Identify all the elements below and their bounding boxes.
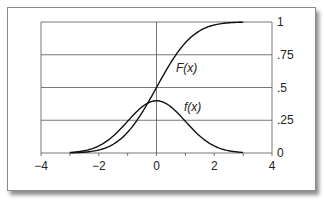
x-tick-label: 4 (269, 159, 276, 173)
y-tick-label: .75 (277, 48, 294, 62)
y-axis-ticks: 0.25.5.751 (277, 15, 294, 160)
label-pdf: f(x) (184, 100, 201, 114)
x-axis-ticks: −4−2024 (34, 159, 276, 173)
x-tick-label: 2 (211, 159, 218, 173)
chart-plot: −4−2024 0.25.5.751 F(x) f(x) (0, 0, 324, 203)
grid-lines (41, 22, 272, 156)
y-tick-label: .25 (277, 113, 294, 127)
x-tick-label: −2 (92, 159, 106, 173)
y-tick-label: 1 (277, 15, 284, 29)
x-tick-label: −4 (34, 159, 48, 173)
label-cdf: F(x) (176, 61, 197, 75)
y-tick-label: 0 (277, 146, 284, 160)
y-tick-label: .5 (277, 81, 287, 95)
x-tick-label: 0 (153, 159, 160, 173)
